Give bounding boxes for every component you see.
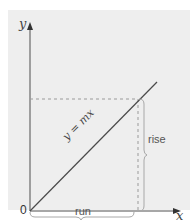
run-label: run [75,205,91,217]
rise-label: rise [148,133,166,145]
rise-brace [139,99,147,211]
slope-diagram [0,0,196,222]
x-axis-label: x [176,210,183,222]
y-axis-label: y [19,16,26,31]
y-axis-arrow-icon [27,22,33,30]
y-axis [27,22,33,211]
origin-label: 0 [20,203,27,217]
x-axis [30,208,181,214]
